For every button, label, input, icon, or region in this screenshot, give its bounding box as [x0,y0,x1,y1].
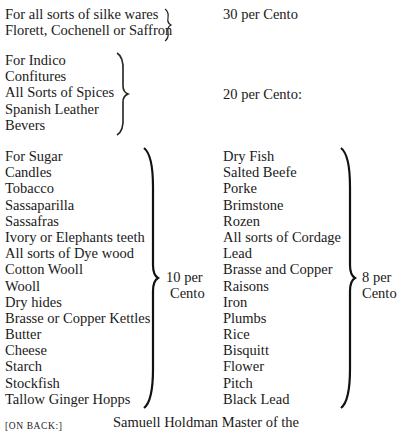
group3-rate: 10 per Cento [166,269,205,301]
list-item: Starch [5,358,150,374]
list-item: Cotton Wooll [5,261,150,277]
list-item: Bevers [5,117,114,133]
list-item: For Indico [5,52,114,68]
list-item: Bisquitt [223,342,341,358]
list-item: Stockfish [5,375,150,391]
list-item: Brasse and Copper [223,261,341,277]
list-item: Tallow Ginger Hopps [5,391,150,407]
group2-rate: 20 per Cento: [223,86,302,102]
list-item: Dry Fish [223,148,341,164]
list-item: Raisons [223,278,341,294]
group1-items: For all sorts of silke wares Florett, Co… [5,6,172,38]
footer-text: Samuell Holdman Master of the [113,414,299,430]
list-item: Brasse or Copper Kettles [5,310,150,326]
group4-items: Dry Fish Salted Beefe Porke Brimstone Ro… [223,148,341,407]
list-item: Rozen [223,213,341,229]
list-item: Dry hides [5,294,150,310]
list-item: Cheese [5,342,150,358]
brace-icon [115,52,131,136]
list-item: Florett, Cochenell or Saffron [5,22,172,38]
list-item: Sassafras [5,213,150,229]
list-item: Salted Beefe [223,164,341,180]
list-item: Black Lead [223,391,341,407]
group1-rate: 30 per Cento [223,6,298,22]
list-item: Plumbs [223,310,341,326]
footer-label: [ON BACK:] [5,418,62,431]
brace-icon [163,8,173,42]
list-item: Brimstone [223,197,341,213]
list-item: All sorts of Cordage [223,229,341,245]
list-item: Rice [223,326,341,342]
list-item: Ivory or Elephants teeth [5,229,150,245]
brace-icon [337,147,357,409]
list-item: Butter [5,326,150,342]
list-item: For Sugar [5,148,150,164]
list-item: Confitures [5,68,114,84]
brace-icon [140,147,160,409]
list-item: Candles [5,164,150,180]
list-item: Porke [223,180,341,196]
list-item: For all sorts of silke wares [5,6,172,22]
group4-rate: 8 per Cento [362,269,397,301]
list-item: All Sorts of Spices [5,84,114,100]
group3-items: For Sugar Candles Tobacco Sassaparilla S… [5,148,150,407]
group2-items: For Indico Confitures All Sorts of Spice… [5,52,114,133]
list-item: Wooll [5,278,150,294]
list-item: Flower [223,358,341,374]
list-item: Sassaparilla [5,197,150,213]
list-item: Spanish Leather [5,101,114,117]
list-item: Pitch [223,375,341,391]
list-item: Iron [223,294,341,310]
list-item: All sorts of Dye wood [5,245,150,261]
list-item: Lead [223,245,341,261]
list-item: Tobacco [5,180,150,196]
